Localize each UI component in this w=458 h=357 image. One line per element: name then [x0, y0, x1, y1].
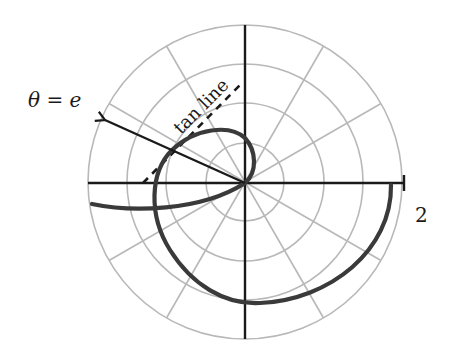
theta-label: θ = e	[28, 88, 81, 112]
radius-tick-label: 2	[415, 203, 428, 227]
polar-curve	[92, 130, 391, 303]
polar-diagram: θ = e tan line 2	[0, 0, 458, 357]
